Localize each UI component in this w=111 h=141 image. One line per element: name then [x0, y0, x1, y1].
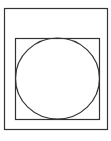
outer-rectangle — [5, 9, 108, 130]
diagram-canvas — [0, 0, 111, 141]
inscribed-circle — [16, 38, 100, 119]
